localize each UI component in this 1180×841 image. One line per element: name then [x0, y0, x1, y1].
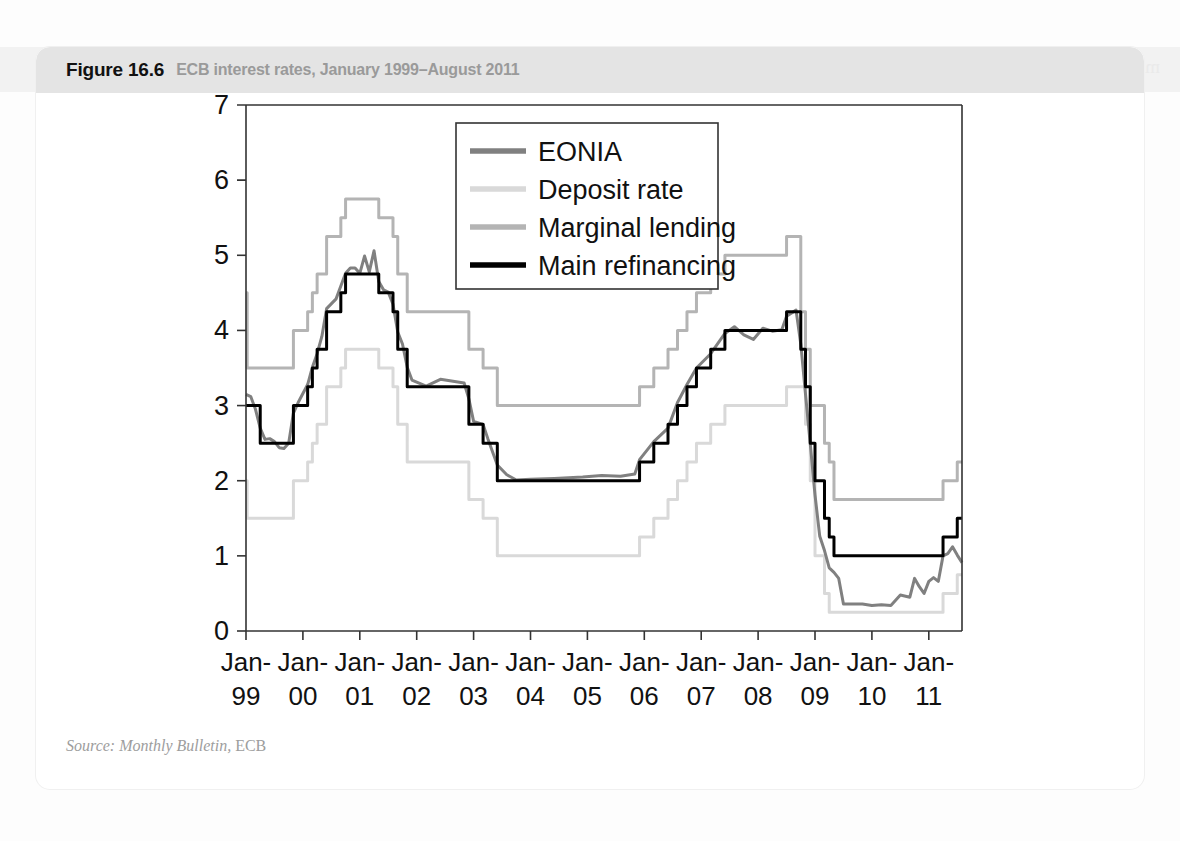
y-tick-label: 7 — [214, 93, 229, 120]
legend-label-marginal-lending: Marginal lending — [538, 213, 736, 243]
x-tick-label-month: Jan- — [733, 647, 784, 677]
x-tick-label-year: 11 — [915, 681, 942, 711]
y-tick-label: 3 — [214, 391, 229, 421]
y-tick-label: 1 — [214, 541, 229, 571]
series-line-eonia — [246, 251, 962, 606]
series-line-main-refinancing — [246, 274, 962, 556]
ecb-interest-rates-chart: 01234567 Jan-99Jan-00Jan-01Jan-02Jan-03J… — [36, 93, 1144, 733]
x-tick-label-year: 09 — [801, 681, 830, 711]
legend-label-main-refinancing: Main refinancing — [538, 251, 736, 281]
chart-plot-area: 01234567 Jan-99Jan-00Jan-01Jan-02Jan-03J… — [36, 93, 1144, 733]
y-tick-label: 0 — [214, 616, 229, 646]
x-tick-label-month: Jan- — [391, 647, 442, 677]
x-tick-label-month: Jan- — [904, 647, 955, 677]
x-tick-label-month: Jan- — [505, 647, 556, 677]
x-tick-label-month: Jan- — [448, 647, 499, 677]
x-tick-label-year: 05 — [573, 681, 602, 711]
x-tick-label-year: 08 — [744, 681, 773, 711]
figure-subtitle: ECB interest rates, January 1999–August … — [176, 61, 519, 79]
x-tick-label-year: 01 — [345, 681, 374, 711]
chart-legend: EONIADeposit rateMarginal lendingMain re… — [456, 123, 736, 289]
y-tick-label: 4 — [214, 315, 229, 345]
source-caption: Source: Monthly Bulletin, ECB — [66, 737, 266, 755]
figure-card: Figure 16.6 ECB interest rates, January … — [36, 47, 1144, 789]
y-tick-label: 6 — [214, 165, 229, 195]
x-tick-labels: Jan-99Jan-00Jan-01Jan-02Jan-03Jan-04Jan-… — [221, 647, 954, 711]
x-tick-label-year: 02 — [402, 681, 431, 711]
y-tick-label: 5 — [214, 240, 229, 270]
x-tick-label-year: 10 — [857, 681, 886, 711]
x-tick-label-month: Jan- — [619, 647, 670, 677]
x-tick-label-year: 00 — [288, 681, 317, 711]
x-tick-label-year: 03 — [459, 681, 488, 711]
x-tick-label-year: 06 — [630, 681, 659, 711]
source-suffix: ECB — [235, 737, 266, 754]
x-tick-label-year: 99 — [232, 681, 261, 711]
x-tick-label-month: Jan- — [847, 647, 898, 677]
figure-header: Figure 16.6 ECB interest rates, January … — [36, 47, 1144, 93]
x-tick-label-year: 07 — [687, 681, 716, 711]
x-tick-label-month: Jan- — [221, 647, 272, 677]
legend-label-eonia: EONIA — [538, 137, 622, 167]
legend-label-deposit-rate: Deposit rate — [538, 175, 684, 205]
x-tick-label-month: Jan- — [790, 647, 841, 677]
x-tick-label-month: Jan- — [562, 647, 613, 677]
x-tick-label-year: 04 — [516, 681, 545, 711]
x-tick-label-month: Jan- — [676, 647, 727, 677]
y-tick-label: 2 — [214, 466, 229, 496]
y-tick-labels: 01234567 — [214, 93, 229, 646]
source-prefix: Source: Monthly Bulletin, — [66, 737, 231, 754]
x-tick-label-month: Jan- — [278, 647, 329, 677]
figure-number: Figure 16.6 — [66, 59, 164, 81]
x-tick-label-month: Jan- — [335, 647, 386, 677]
